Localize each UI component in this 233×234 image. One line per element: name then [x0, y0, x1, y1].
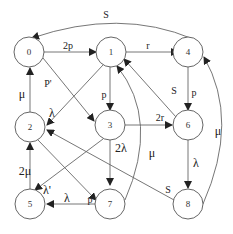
- state-node-2: 2: [15, 112, 45, 142]
- edge-label-7-5: λ: [64, 191, 70, 205]
- edge-6-1: [124, 59, 176, 117]
- svg-text:8: 8: [186, 199, 191, 209]
- edge-label-3-6: 2r: [156, 112, 165, 123]
- svg-text:0: 0: [27, 47, 32, 57]
- svg-text:1: 1: [109, 47, 114, 57]
- state-node-3: 3: [95, 110, 125, 140]
- state-node-4: 4: [173, 37, 203, 67]
- edge-label-6-8: λ: [193, 156, 199, 170]
- edge-label-1-2: λ: [49, 106, 55, 120]
- edge-label-3-5: λ': [43, 183, 51, 197]
- svg-text:6: 6: [186, 120, 191, 130]
- state-diagram: S 2p P' r p λ p S 2r 2λ λ' λ μ μ S μ 2μ …: [0, 0, 233, 234]
- edge-label-0-1: 2p: [63, 40, 73, 51]
- svg-text:4: 4: [186, 47, 191, 57]
- svg-text:3: 3: [108, 120, 113, 130]
- svg-text:7: 7: [108, 199, 113, 209]
- edge-label-5-2: 2μ: [19, 164, 31, 178]
- edge-label-0-3: P': [44, 78, 52, 89]
- state-node-1: 1: [96, 37, 126, 67]
- state-node-8: 8: [173, 189, 203, 219]
- edge-label-1-3: p: [102, 89, 107, 100]
- edge-label-6-1: S: [171, 85, 177, 96]
- state-node-6: 6: [173, 110, 203, 140]
- edge-label-8-2: S: [165, 184, 171, 195]
- state-node-0: 0: [14, 37, 44, 67]
- state-node-7: 7: [95, 189, 125, 219]
- edge-label-4-6: p: [192, 87, 197, 98]
- edge-label-2-7: p: [88, 194, 93, 205]
- edge-label-7-1: μ: [149, 146, 155, 160]
- state-node-5: 5: [15, 189, 45, 219]
- edge-label-2-0: μ: [19, 87, 25, 101]
- edge-label-1-4: r: [146, 40, 150, 51]
- svg-text:5: 5: [28, 199, 33, 209]
- edge-label-8-4: μ: [215, 124, 221, 138]
- edge-label-4-0: S: [103, 9, 109, 20]
- svg-text:2: 2: [28, 122, 33, 132]
- edge-label-3-7: 2λ: [115, 141, 127, 155]
